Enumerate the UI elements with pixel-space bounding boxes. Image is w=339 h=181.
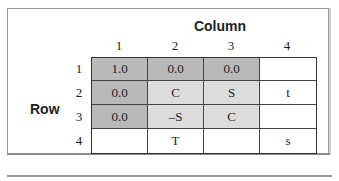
matrix-cell-r4c1 xyxy=(92,129,148,153)
column-header-4: 4 xyxy=(259,38,315,54)
bottom-rule xyxy=(7,175,332,177)
matrix-cell-r3c4 xyxy=(260,105,316,129)
matrix-cell-r3c3: C xyxy=(204,105,260,129)
row-header-4: 4 xyxy=(72,133,86,149)
matrix-cell-r4c2: T xyxy=(148,129,204,153)
matrix-cell-r3c2: –S xyxy=(148,105,204,129)
matrix-cell-r2c1: 0.0 xyxy=(92,81,148,105)
matrix-cell-r1c3: 0.0 xyxy=(204,58,260,81)
matrix-cell-r2c4: t xyxy=(260,81,316,105)
column-header-3: 3 xyxy=(203,38,259,54)
row-header-2: 2 xyxy=(72,85,86,101)
row-axis-title: Row xyxy=(30,101,60,117)
column-header-2: 2 xyxy=(147,38,203,54)
matrix-cell-r2c2: C xyxy=(148,81,204,105)
row-header-1: 1 xyxy=(72,61,86,77)
matrix-grid: 1.0 0.0 0.0 0.0 C S t 0.0 –S C T s xyxy=(91,57,317,154)
frame-shadow-right xyxy=(329,8,331,155)
matrix-cell-r3c1: 0.0 xyxy=(92,105,148,129)
matrix-cell-r4c4: s xyxy=(260,129,316,153)
matrix-cell-r1c4 xyxy=(260,58,316,81)
column-header-1: 1 xyxy=(91,38,147,54)
matrix-cell-r4c3 xyxy=(204,129,260,153)
row-header-3: 3 xyxy=(72,109,86,125)
matrix-cell-r2c3: S xyxy=(204,81,260,105)
matrix-cell-r1c2: 0.0 xyxy=(148,58,204,81)
column-axis-title: Column xyxy=(180,18,260,34)
matrix-cell-r1c1: 1.0 xyxy=(92,58,148,81)
